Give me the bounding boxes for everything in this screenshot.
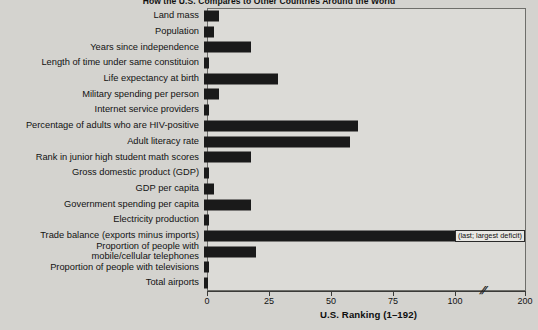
bar-track	[203, 71, 538, 87]
category-label: Total airports	[0, 278, 203, 288]
chart-row: Life expectancy at birth	[0, 71, 538, 87]
bar-track	[203, 181, 538, 197]
bar-chart: How the U.S. Compares to Other Countries…	[0, 0, 538, 330]
bar-track	[203, 197, 538, 213]
category-label: Land mass	[0, 11, 203, 21]
bar-track	[203, 55, 538, 71]
bar	[204, 105, 209, 116]
x-axis-line	[207, 291, 525, 292]
bar-track	[203, 8, 538, 24]
chart-row: Length of time under same constituion	[0, 55, 538, 71]
chart-row: Gross domestic product (GDP)	[0, 165, 538, 181]
chart-row: Population	[0, 24, 538, 40]
bar	[204, 199, 251, 210]
chart-rows: Land massPopulationYears since independe…	[0, 8, 538, 291]
category-label: Proportion of people with mobile/cellula…	[0, 242, 203, 261]
chart-row: Electricity production	[0, 212, 538, 228]
bar	[204, 120, 358, 131]
category-label: Rank in junior high student math scores	[0, 153, 203, 163]
bar-track	[203, 102, 538, 118]
category-label: Adult literacy rate	[0, 137, 203, 147]
bar-track	[203, 260, 538, 276]
bar	[204, 168, 209, 179]
bar-track	[203, 118, 538, 134]
chart-row: Land mass	[0, 8, 538, 24]
bar	[204, 152, 251, 163]
bar	[204, 58, 209, 69]
bar-track	[203, 87, 538, 103]
bar	[204, 136, 350, 147]
bar	[204, 89, 219, 100]
category-label: Years since independence	[0, 43, 203, 53]
chart-row: GDP per capita	[0, 181, 538, 197]
bar-track	[203, 244, 538, 260]
chart-row: Rank in junior high student math scores	[0, 150, 538, 166]
chart-row: Proportion of people with mobile/cellula…	[0, 244, 538, 260]
bar-annotation: (last; largest deficit)	[455, 230, 525, 242]
category-label: Percentage of adults who are HIV-positiv…	[0, 121, 203, 131]
chart-row: Internet service providers	[0, 102, 538, 118]
bar	[204, 73, 278, 84]
chart-row: Adult literacy rate	[0, 134, 538, 150]
bar	[204, 10, 219, 21]
bar-track	[203, 150, 538, 166]
bar-track	[203, 165, 538, 181]
chart-row: Total airports	[0, 275, 538, 291]
bar	[204, 246, 256, 257]
bar-track: (last; largest deficit)	[203, 228, 538, 244]
x-axis-tick-label: 0	[204, 296, 209, 306]
x-axis-tick-label: 25	[264, 296, 274, 306]
chart-row: Years since independence	[0, 39, 538, 55]
x-axis-tick-label: 100	[447, 296, 462, 306]
category-label: Trade balance (exports minus imports)	[0, 231, 203, 241]
x-axis-title: U.S. Ranking (1–192)	[207, 309, 530, 320]
category-label: Internet service providers	[0, 105, 203, 115]
bar	[204, 215, 209, 226]
x-axis-tick-label: 75	[388, 296, 398, 306]
chart-row: Proportion of people with televisions	[0, 260, 538, 276]
bar	[204, 278, 208, 289]
category-label: Military spending per person	[0, 90, 203, 100]
bar	[204, 26, 214, 37]
category-label: Population	[0, 27, 203, 37]
chart-row: Government spending per capita	[0, 197, 538, 213]
bar	[204, 183, 214, 194]
category-label: Life expectancy at birth	[0, 74, 203, 84]
axis-break-icon: //	[481, 285, 497, 295]
category-label: Electricity production	[0, 215, 203, 225]
chart-row: Military spending per person	[0, 87, 538, 103]
category-label: Gross domestic product (GDP)	[0, 168, 203, 178]
category-label: GDP per capita	[0, 184, 203, 194]
chart-row: Percentage of adults who are HIV-positiv…	[0, 118, 538, 134]
bar-track	[203, 212, 538, 228]
bar	[204, 262, 209, 273]
category-label: Government spending per capita	[0, 200, 203, 210]
bar-track	[203, 39, 538, 55]
category-label: Length of time under same constituion	[0, 58, 203, 68]
chart-title: How the U.S. Compares to Other Countries…	[0, 0, 538, 6]
bar	[204, 42, 251, 53]
category-label: Proportion of people with televisions	[0, 263, 203, 273]
x-axis-tick-label: 200	[517, 296, 532, 306]
x-axis-tick-label: 50	[326, 296, 336, 306]
bar-track	[203, 134, 538, 150]
bar-track	[203, 24, 538, 40]
